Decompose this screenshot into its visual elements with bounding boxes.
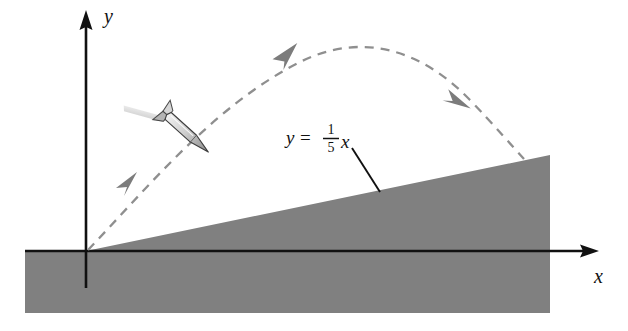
rocket-body — [164, 111, 212, 155]
equation-fraction-numerator: 1 — [328, 122, 335, 137]
equation-variable: x — [340, 131, 350, 152]
equation-equals-sign: = — [300, 127, 311, 148]
trajectory-arrowhead-ascent — [116, 172, 137, 196]
rocket-icon — [121, 80, 217, 172]
x-axis-label: x — [593, 265, 603, 287]
rocket-exhaust-trail — [121, 91, 166, 135]
line-equation-annotation: y = 1 5 x — [284, 122, 380, 192]
trajectory-arrowhead-apex — [270, 43, 303, 72]
equation-leader-line — [352, 148, 380, 192]
equation-fraction-denominator: 5 — [328, 140, 335, 155]
y-axis-arrowhead — [80, 10, 93, 30]
figure-container: y = 1 5 x y x — [0, 0, 628, 331]
rocket-trajectory-figure: y = 1 5 x y x — [0, 0, 628, 331]
y-axis-label: y — [102, 5, 113, 28]
equation-lhs: y — [284, 127, 295, 148]
